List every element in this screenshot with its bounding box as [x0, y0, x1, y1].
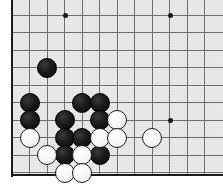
white-stone[interactable] — [107, 128, 127, 148]
white-stone[interactable] — [20, 128, 40, 148]
white-stone[interactable] — [37, 145, 57, 165]
stone-layer — [0, 0, 223, 190]
black-stone[interactable] — [90, 145, 110, 165]
go-board-diagram — [0, 0, 223, 190]
black-stone[interactable] — [37, 58, 57, 78]
white-stone[interactable] — [142, 128, 162, 148]
white-stone[interactable] — [72, 163, 92, 183]
